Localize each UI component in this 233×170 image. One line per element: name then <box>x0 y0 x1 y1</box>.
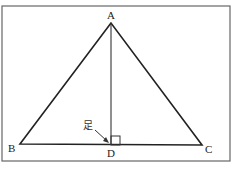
vertex-label-a: A <box>107 9 115 21</box>
right-angle-marker <box>111 136 120 145</box>
vertex-label-d: D <box>107 147 115 159</box>
vertex-label-b: B <box>8 142 15 154</box>
foot-label: 足 <box>83 120 93 131</box>
vertex-label-c: C <box>205 143 212 155</box>
triangle-diagram: A B C D 足 <box>0 0 233 170</box>
